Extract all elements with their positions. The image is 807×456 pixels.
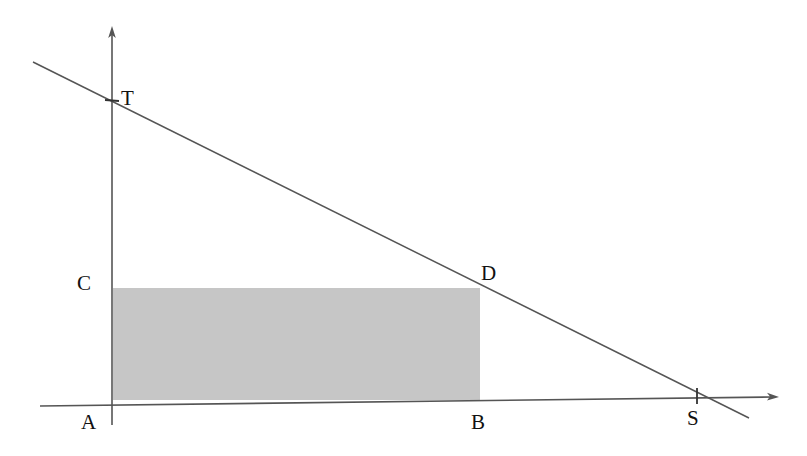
shaded-rectangle-abdc — [113, 288, 480, 400]
point-label-t: T — [121, 88, 134, 109]
point-label-s: S — [687, 408, 699, 429]
diagram-canvas — [0, 0, 807, 456]
point-label-a: A — [81, 412, 96, 433]
point-label-c: C — [77, 273, 91, 294]
geometry-diagram: T C D A B S — [0, 0, 807, 456]
point-label-b: B — [471, 412, 485, 433]
tick-mark-t — [105, 100, 119, 101]
point-label-d: D — [481, 263, 496, 284]
